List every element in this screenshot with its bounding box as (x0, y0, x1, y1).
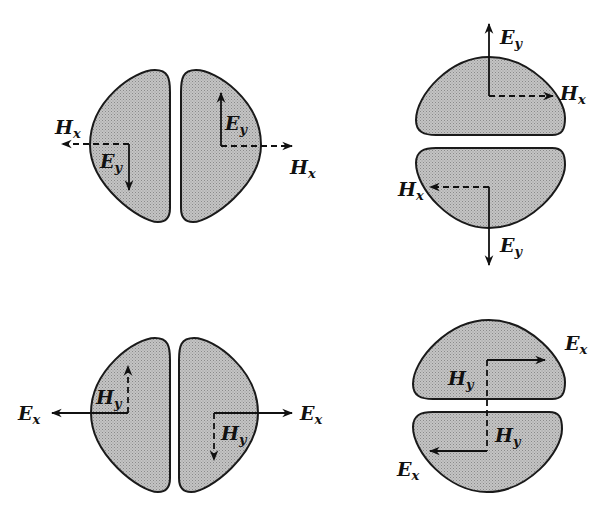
panel-top-right: Ey Hx Hx Ey (397, 24, 586, 265)
lobe-left (90, 70, 170, 222)
panel-top-left: Hx Ey Ey Hx (54, 70, 316, 222)
label-ex: Ex (396, 458, 419, 483)
label-hx: Hx (559, 82, 586, 107)
label-hx: Hx (289, 156, 316, 181)
lobe-right (179, 338, 258, 492)
label-ey: Ey (499, 234, 523, 259)
label-ex: Ex (564, 332, 587, 357)
label-ey: Ey (499, 26, 523, 51)
field-pattern-diagram: Hx Ey Ey Hx Ey Hx Hx Ey Ex Hy Hy Ex E (0, 0, 615, 507)
label-ex: Ex (299, 402, 322, 427)
panel-bottom-right: Ex Hy Hy Ex (396, 320, 587, 492)
lobe-lower (416, 148, 565, 228)
lobe-left (91, 338, 170, 492)
label-hx: Hx (54, 116, 81, 141)
label-ex: Ex (17, 402, 40, 427)
panel-bottom-left: Ex Hy Hy Ex (17, 338, 322, 492)
